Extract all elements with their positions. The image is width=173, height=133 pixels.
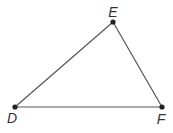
vertex-label-f: F [157,111,167,127]
triangle-diagram: DEF [0,0,173,133]
vertex-point-d [12,104,17,109]
vertex-points [12,19,164,109]
vertex-point-e [110,19,115,24]
vertex-label-e: E [108,4,118,20]
segment-ef [113,22,162,107]
triangle-sides [15,22,162,107]
vertex-point-f [159,104,164,109]
triangle-canvas: DEF [0,0,173,133]
segment-de [15,22,113,107]
vertex-label-d: D [7,110,17,126]
vertex-labels: DEF [7,4,167,127]
